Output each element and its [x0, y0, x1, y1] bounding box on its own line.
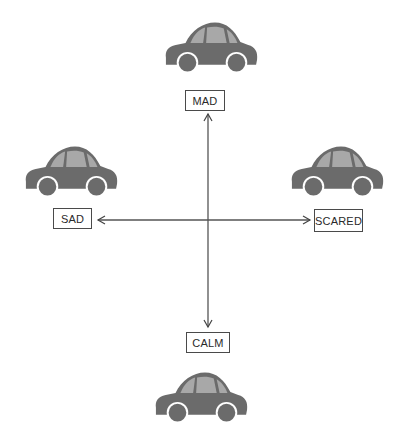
car-icon-bottom: [152, 368, 250, 426]
emotion-diagram: MAD SAD SCARED CALM: [0, 0, 411, 446]
label-scared: SCARED: [314, 209, 363, 232]
car-icon-left: [22, 142, 120, 200]
car-icon-top: [162, 18, 260, 76]
label-mad: MAD: [185, 90, 225, 111]
label-sad: SAD: [53, 208, 92, 229]
car-icon-right: [288, 142, 386, 200]
label-calm: CALM: [186, 332, 230, 353]
